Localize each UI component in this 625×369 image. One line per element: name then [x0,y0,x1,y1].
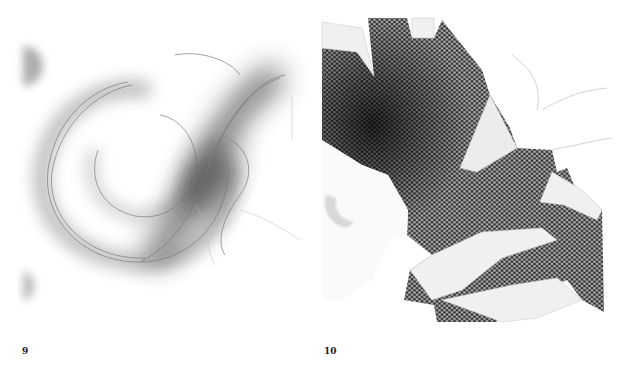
plate-number: 10 [324,346,337,356]
calligraphy-artwork [0,0,312,340]
plate-9: 9 [0,0,312,369]
plate-10: 10 [312,0,625,369]
plate-number: 9 [22,346,28,356]
torn-paper-mesh-artwork [312,0,625,340]
